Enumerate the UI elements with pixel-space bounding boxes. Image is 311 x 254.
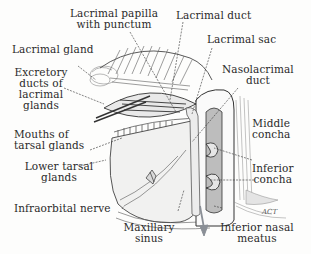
- label-line: concha: [252, 174, 294, 185]
- label-mouths-tarsal-glands: Mouths of tarsal glands: [14, 129, 84, 151]
- label-lacrimal-papilla: Lacrimal papilla with punctum: [70, 8, 158, 30]
- label-inferior-nasal-meatus: Inferior nasal meatus: [212, 222, 302, 244]
- label-middle-concha: Middle concha: [252, 118, 290, 140]
- artist-signature: ACT: [261, 208, 278, 216]
- label-lacrimal-gland: Lacrimal gland: [12, 44, 94, 55]
- label-line: Infraorbital nerve: [14, 203, 111, 214]
- label-line: Lacrimal duct: [176, 10, 251, 21]
- anatomy-figure: ACT Lacrimal papilla with punctum Lacrim…: [0, 0, 311, 254]
- label-line: tarsal glands: [14, 140, 84, 151]
- lacrimal-gland-shape: [90, 66, 118, 86]
- nasal-inner-wall: [206, 108, 222, 213]
- label-line: glands: [16, 172, 102, 183]
- label-excretory-ducts: Excretory ducts of lacrimal glands: [10, 67, 72, 111]
- label-inferior-concha: Inferior concha: [252, 163, 294, 185]
- label-lacrimal-sac: Lacrimal sac: [207, 34, 276, 45]
- label-line: duct: [222, 75, 294, 86]
- label-lacrimal-duct: Lacrimal duct: [176, 10, 251, 21]
- eye-shape: [94, 93, 196, 122]
- label-lower-tarsal-glands: Lower tarsal glands: [16, 161, 102, 183]
- label-infraorbital-nerve: Infraorbital nerve: [14, 203, 111, 214]
- label-line: sinus: [118, 233, 180, 244]
- label-nasolacrimal-duct: Nasolacrimal duct: [222, 64, 294, 86]
- label-line: Lacrimal sac: [207, 34, 276, 45]
- label-line: glands: [10, 100, 72, 111]
- label-line: meatus: [212, 233, 302, 244]
- label-maxillary-sinus: Maxillary sinus: [118, 222, 180, 244]
- label-line: Lacrimal gland: [12, 44, 94, 55]
- upper-eyelid-shape: [100, 46, 212, 90]
- label-line: with punctum: [70, 19, 158, 30]
- label-line: concha: [252, 129, 290, 140]
